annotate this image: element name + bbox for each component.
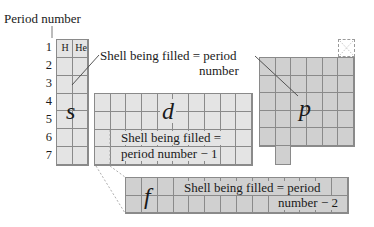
leader-lines [0,0,374,227]
callout-to-p-leader [255,56,298,96]
f-connector-bottom [96,166,125,213]
callout-to-s-leader [72,55,99,85]
f-connector-top [110,166,125,177]
